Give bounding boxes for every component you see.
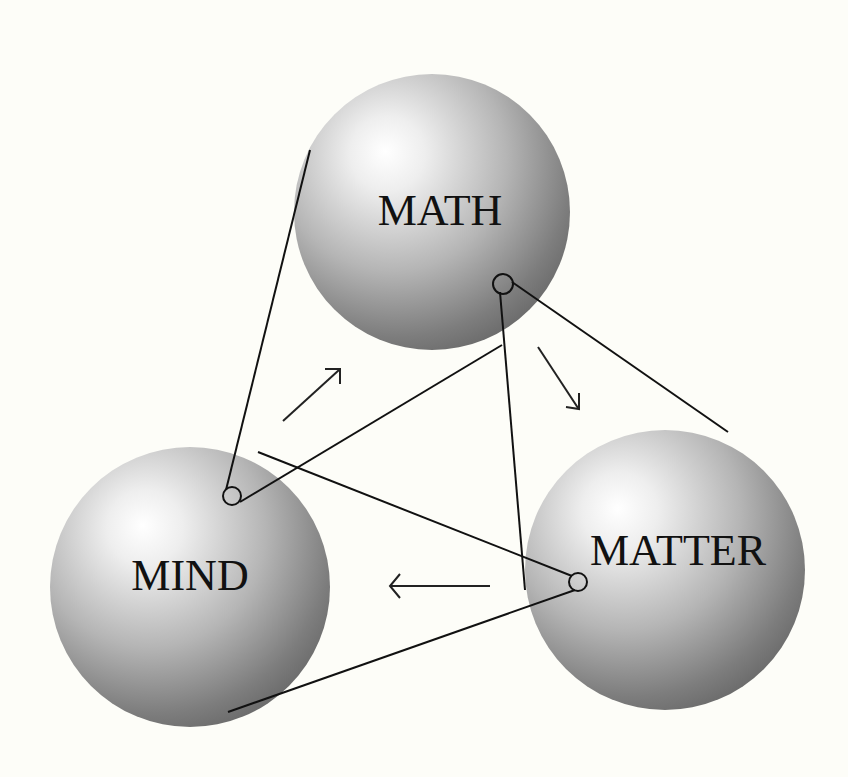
arrow-math-to-matter-icon: [538, 347, 579, 409]
arrow-matter-to-mind-icon: [390, 574, 490, 598]
line-mind-to-math-bottom: [240, 345, 502, 502]
label-matter: MATTER: [590, 526, 767, 575]
sphere-mind: MIND: [50, 447, 330, 727]
math-mind-matter-diagram: MATH MIND MATTER: [0, 0, 848, 777]
line-mind-to-math-left: [226, 150, 310, 490]
line-math-to-matter-left: [500, 292, 525, 590]
label-math: MATH: [378, 186, 503, 235]
sphere-math: MATH: [294, 74, 570, 350]
label-mind: MIND: [131, 551, 248, 600]
sphere-matter: MATTER: [525, 430, 805, 710]
arrow-mind-to-math-icon: [283, 369, 340, 421]
